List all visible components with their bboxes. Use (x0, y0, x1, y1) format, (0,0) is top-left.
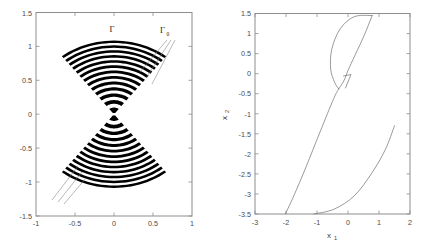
right-y-axis-title: x 2 (220, 110, 230, 120)
left-y-tick-label: 0 (28, 110, 32, 119)
right-x-tick-labels: -3 -2 -1 0 1 2 (252, 218, 412, 227)
right-y-tick-label: 0 (247, 69, 251, 78)
left-y-tick-label: 0.5 (22, 76, 32, 85)
left-x-tick-label: -1 (33, 219, 39, 228)
cone-band (109, 108, 118, 114)
right-y-tick-label: 1 (247, 29, 251, 38)
left-plot-svg: 1.5 1 0.5 0 -0.5 -1 -1.5 -1 -0.5 0 0.5 1 (0, 0, 215, 242)
right-x-tick-label: 2 (408, 218, 412, 227)
data-curve (339, 16, 372, 89)
right-x-tick-label: 0 (346, 218, 350, 227)
right-axes-box (255, 14, 410, 215)
data-curve (285, 89, 338, 214)
left-x-tick-label: 0 (112, 219, 116, 228)
right-y-tick-labels: 1.5 1 0.5 0 -0.5 -1 -1.5 -2 -2.5 -3 -3.5 (239, 9, 251, 219)
data-curve (314, 126, 395, 214)
left-plot-panel: 1.5 1 0.5 0 -0.5 -1 -1.5 -1 -0.5 0 0.5 1 (0, 0, 215, 242)
right-x-tick-label: 1 (377, 218, 381, 227)
right-x-axis-title: x 1 (327, 231, 337, 241)
right-x-tick-label: -3 (252, 218, 258, 227)
hook-marker (344, 75, 352, 89)
lower-cone-leader-lines (52, 166, 86, 204)
left-y-tick-labels: 1.5 1 0.5 0 -0.5 -1 -1.5 (20, 9, 32, 221)
right-y-tick-label: -1.5 (239, 130, 251, 139)
left-axis-ticks (36, 13, 192, 217)
lower-cone-band-group (62, 115, 166, 188)
cone-band (104, 123, 124, 129)
y-axis-title-base: x (220, 116, 229, 120)
gamma-label: Γ (110, 24, 115, 34)
right-x-tick-label: -2 (283, 218, 289, 227)
left-x-tick-labels: -1 -0.5 0 0.5 1 (33, 219, 194, 228)
right-y-tick-label: -3.5 (239, 210, 251, 219)
figure-root: 1.5 1 0.5 0 -0.5 -1 -1.5 -1 -0.5 0 0.5 1 (0, 0, 431, 242)
gamma-zero-label: Γ 0 (160, 25, 170, 37)
right-plot-svg: 1.5 1 0.5 0 -0.5 -1 -1.5 -2 -2.5 -3 -3.5… (215, 0, 431, 242)
y-axis-title-subscript: 2 (224, 110, 230, 113)
right-y-tick-label: -2.5 (239, 170, 251, 179)
right-y-tick-label: 1.5 (241, 9, 251, 18)
cone-band (99, 93, 128, 100)
right-y-tick-label: -3 (245, 190, 251, 199)
cone-band (99, 128, 128, 135)
right-y-tick-label: -2 (245, 150, 251, 159)
data-curve (330, 15, 372, 89)
right-axis-ticks (255, 14, 410, 215)
gamma-zero-label-base: Γ (160, 25, 165, 35)
right-x-tick-label: -1 (314, 218, 320, 227)
right-y-tick-label: -0.5 (239, 89, 251, 98)
left-x-tick-label: 1 (190, 219, 194, 228)
x-axis-title-subscript: 1 (334, 235, 337, 241)
left-y-tick-label: 1 (28, 42, 32, 51)
upper-cone-band-group (62, 41, 166, 114)
cone-band (87, 142, 141, 152)
right-data-curves (285, 15, 394, 214)
right-y-tick-label: -1 (245, 110, 251, 119)
left-x-tick-label: -0.5 (69, 219, 81, 228)
right-plot-panel: 1.5 1 0.5 0 -0.5 -1 -1.5 -2 -2.5 -3 -3.5… (215, 0, 431, 242)
x-axis-title-base: x (327, 231, 331, 240)
left-y-tick-label: 1.5 (22, 9, 32, 18)
left-axes-box (36, 13, 192, 217)
left-y-tick-label: -0.5 (20, 144, 32, 153)
cone-band (87, 76, 141, 86)
cone-band (109, 115, 118, 121)
left-x-tick-label: 0.5 (148, 219, 158, 228)
gamma-zero-label-subscript: 0 (167, 31, 170, 37)
right-y-tick-label: 0.5 (241, 49, 251, 58)
left-y-tick-label: -1 (26, 178, 32, 187)
left-y-tick-label: -1.5 (20, 212, 32, 221)
cone-band (104, 100, 124, 106)
